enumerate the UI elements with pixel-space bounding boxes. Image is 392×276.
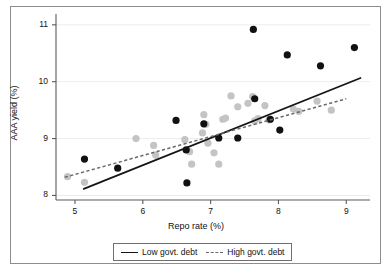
y-tick-label-10: 10	[30, 76, 48, 86]
data-point	[328, 107, 335, 114]
chart-figure: AAA yield (%) Repo rate (%) 89101156789 …	[0, 0, 392, 276]
data-point	[183, 179, 190, 186]
data-point	[181, 136, 188, 143]
x-tick-label-9: 9	[331, 206, 361, 216]
data-point	[244, 100, 251, 107]
data-point	[188, 161, 195, 168]
y-axis-title: AAA yield (%)	[9, 58, 19, 168]
data-point	[210, 149, 217, 156]
data-point	[114, 165, 121, 172]
data-point	[317, 62, 324, 69]
data-point	[150, 142, 157, 149]
data-point	[227, 92, 234, 99]
data-point	[132, 135, 139, 142]
data-point	[250, 26, 257, 33]
data-point	[215, 161, 222, 168]
data-point	[234, 134, 241, 141]
legend-label-high-govt-debt: High govt. debt	[227, 247, 284, 257]
scatter-plot-canvas	[0, 0, 392, 276]
y-tick-label-11: 11	[30, 19, 48, 29]
data-point	[284, 51, 291, 58]
trendline-high-govt-debt	[65, 99, 346, 177]
series-high-govt-debt	[64, 92, 335, 186]
legend-item-low-govt-debt: Low govt. debt	[121, 247, 197, 257]
data-point	[81, 155, 88, 162]
x-tick-label-8: 8	[263, 206, 293, 216]
x-tick-label-6: 6	[128, 206, 158, 216]
data-point	[200, 120, 207, 127]
data-point	[172, 117, 179, 124]
legend-item-high-govt-debt: High govt. debt	[206, 247, 284, 257]
x-tick-label-7: 7	[196, 206, 226, 216]
legend-label-low-govt-debt: Low govt. debt	[142, 247, 197, 257]
data-point	[261, 102, 268, 109]
data-point	[251, 95, 258, 102]
data-point	[81, 179, 88, 186]
y-tick-label-8: 8	[30, 189, 48, 199]
data-point	[351, 44, 358, 51]
legend-swatch-dashed-line	[206, 252, 223, 253]
data-point	[199, 129, 206, 136]
data-point	[276, 126, 283, 133]
y-tick-label-9: 9	[30, 133, 48, 143]
data-point	[234, 103, 241, 110]
x-tick-label-5: 5	[60, 206, 90, 216]
chart-legend: Low govt. debt High govt. debt	[113, 243, 292, 261]
data-point	[314, 97, 321, 104]
x-axis-title: Repo rate (%)	[0, 221, 392, 231]
data-point	[222, 115, 229, 122]
data-point	[200, 111, 207, 118]
legend-swatch-solid-line	[121, 252, 138, 253]
